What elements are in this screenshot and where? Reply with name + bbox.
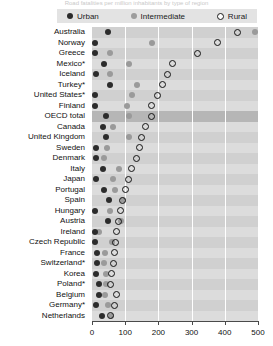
category-label: Czech Republic: [29, 238, 85, 246]
intermediate-point[interactable]: [112, 187, 118, 193]
rural-point[interactable]: [234, 29, 241, 36]
legend-item-intermediate[interactable]: Intermediate: [131, 12, 185, 21]
gridline: [125, 27, 126, 321]
category-label: Germany*: [49, 301, 85, 309]
x-tick: [192, 321, 193, 325]
intermediate-point[interactable]: [126, 61, 132, 67]
category-label: Greece: [59, 49, 85, 57]
category-label: Hungary: [55, 207, 85, 215]
x-tick: [92, 321, 93, 325]
rural-point[interactable]: [154, 92, 161, 99]
rural-marker-icon: [217, 13, 224, 20]
legend-label-rural: Rural: [228, 12, 247, 21]
rural-point[interactable]: [107, 312, 114, 319]
intermediate-point[interactable]: [105, 302, 111, 308]
x-tick-label: 500: [251, 328, 264, 337]
intermediate-point[interactable]: [252, 29, 258, 35]
x-tick-label: 200: [152, 328, 165, 337]
x-tick: [125, 321, 126, 325]
category-label: Canada: [57, 123, 85, 131]
intermediate-marker-icon: [131, 13, 137, 19]
category-label: Austria: [60, 217, 85, 225]
intermediate-point[interactable]: [116, 166, 122, 172]
category-axis-labels: AustraliaNorwayGreeceMexico*IcelandTurke…: [0, 27, 89, 321]
rural-point[interactable]: [142, 123, 149, 130]
category-label: OECD total: [45, 112, 85, 120]
category-label: United Kingdom: [28, 133, 85, 141]
rural-point[interactable]: [133, 155, 140, 162]
urban-point[interactable]: [93, 145, 99, 151]
rural-point[interactable]: [148, 102, 155, 109]
x-tick: [225, 321, 226, 325]
intermediate-point[interactable]: [101, 260, 107, 266]
intermediate-point[interactable]: [104, 145, 110, 151]
category-label: Mexico*: [57, 60, 85, 68]
row-band: [92, 90, 258, 101]
urban-point[interactable]: [99, 313, 105, 319]
rural-point[interactable]: [122, 186, 129, 193]
category-label: France: [60, 249, 85, 257]
row-band: [92, 311, 258, 322]
legend-item-rural[interactable]: Rural: [217, 12, 247, 21]
category-label: Ireland: [61, 228, 85, 236]
row-band: [92, 80, 258, 91]
row-band: [92, 38, 258, 49]
urban-point[interactable]: [103, 113, 109, 119]
rural-point[interactable]: [113, 228, 120, 235]
urban-point[interactable]: [105, 29, 111, 35]
category-label: Switzerland*: [41, 259, 85, 267]
x-tick-label: 0: [90, 328, 94, 337]
intermediate-point[interactable]: [126, 113, 132, 119]
category-label: Japan: [63, 175, 85, 183]
legend-item-urban[interactable]: Urban: [67, 12, 99, 21]
rural-point[interactable]: [214, 39, 221, 46]
row-band: [92, 111, 258, 122]
x-tick-label: 100: [119, 328, 132, 337]
rural-point[interactable]: [110, 260, 117, 267]
category-label: Portugal: [55, 186, 85, 194]
intermediate-point[interactable]: [102, 250, 108, 256]
rural-point[interactable]: [112, 239, 119, 246]
rural-point[interactable]: [148, 113, 155, 120]
intermediate-point[interactable]: [110, 124, 116, 130]
row-band: [92, 279, 258, 290]
rural-point[interactable]: [194, 50, 201, 57]
legend-label-urban: Urban: [77, 12, 99, 21]
rural-point[interactable]: [164, 71, 171, 78]
urban-marker-icon: [67, 13, 73, 19]
rural-point[interactable]: [128, 165, 135, 172]
rural-point[interactable]: [115, 218, 122, 225]
category-label: Sweden: [56, 144, 85, 152]
intermediate-point[interactable]: [124, 103, 130, 109]
row-band: [92, 122, 258, 133]
urban-point[interactable]: [93, 302, 99, 308]
gridline: [158, 27, 159, 321]
rural-point[interactable]: [125, 176, 132, 183]
intermediate-point[interactable]: [134, 82, 140, 88]
urban-point[interactable]: [107, 82, 113, 88]
legend-label-intermediate: Intermediate: [141, 12, 185, 21]
category-label: Italy: [70, 165, 85, 173]
category-label: Norway: [58, 39, 85, 47]
rural-point[interactable]: [111, 302, 118, 309]
gridline: [258, 27, 259, 321]
x-tick: [158, 321, 159, 325]
rural-point[interactable]: [119, 197, 126, 204]
rural-point[interactable]: [136, 144, 143, 151]
row-band: [92, 153, 258, 164]
x-tick: [258, 321, 259, 325]
intermediate-point[interactable]: [110, 176, 116, 182]
intermediate-point[interactable]: [149, 40, 155, 46]
row-band: [92, 195, 258, 206]
chart-title-cropped: Road fatalities per million inhabitants …: [0, 0, 273, 7]
intermediate-point[interactable]: [107, 208, 113, 214]
urban-point[interactable]: [94, 250, 100, 256]
chart-legend: Urban Intermediate Rural: [57, 9, 257, 23]
row-band: [92, 69, 258, 80]
intermediate-point[interactable]: [102, 292, 108, 298]
category-label: Finland: [59, 102, 85, 110]
x-tick-label: 400: [218, 328, 231, 337]
urban-point[interactable]: [105, 218, 111, 224]
plot-area: [92, 27, 258, 321]
category-label: Poland*: [57, 280, 85, 288]
